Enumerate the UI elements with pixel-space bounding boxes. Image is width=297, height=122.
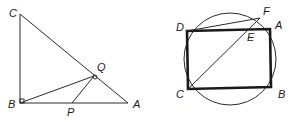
label-A: A xyxy=(274,19,282,31)
label-C: C xyxy=(9,7,17,19)
label-F: F xyxy=(263,5,271,17)
circumcircle xyxy=(184,13,276,105)
label-P: P xyxy=(67,106,75,118)
label-B: B xyxy=(278,88,285,100)
label-B: B xyxy=(8,98,15,110)
label-E: E xyxy=(247,31,255,43)
label-D: D xyxy=(176,21,184,33)
label-C: C xyxy=(176,88,184,100)
label-A: A xyxy=(132,98,140,110)
geometry-diagram: C B A Q P D F A E C B xyxy=(0,0,297,122)
segment-CA xyxy=(20,14,128,103)
rectangle-ABCD xyxy=(187,29,271,89)
label-Q: Q xyxy=(97,61,106,73)
right-triangle-figure: C B A Q P xyxy=(8,7,140,118)
circle-rectangle-figure: D F A E C B xyxy=(176,5,285,105)
